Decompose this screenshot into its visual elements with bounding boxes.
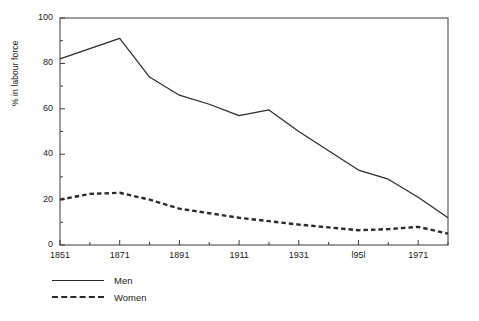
legend-item-women: Women [52, 289, 147, 306]
series-line-women [60, 193, 448, 234]
y-tick-label: 100 [27, 12, 53, 22]
x-tick-label: 1931 [279, 250, 319, 260]
legend-label-men: Men [114, 275, 132, 286]
chart-legend: Men Women [52, 272, 147, 306]
x-tick-label: 1911 [219, 250, 259, 260]
x-tick-label: 1971 [398, 250, 438, 260]
legend-line-swatch-men [52, 276, 104, 285]
x-tick-label: 1891 [159, 250, 199, 260]
x-tick-label: 1871 [100, 250, 140, 260]
x-tick-label: l95l [338, 250, 378, 260]
series-line-men [60, 38, 448, 217]
axis-ticks [60, 18, 448, 245]
y-axis-title: % in labour force [10, 0, 20, 106]
plot-frame [60, 18, 448, 245]
y-tick-label: 60 [27, 103, 53, 113]
x-tick-label: 1851 [40, 250, 80, 260]
legend-label-women: Women [114, 292, 147, 303]
y-tick-label: 80 [27, 57, 53, 67]
data-series-group [60, 38, 448, 233]
chart-figure: % in labour force 020406080100 185118711… [0, 0, 479, 321]
legend-item-men: Men [52, 272, 147, 289]
y-tick-label: 40 [27, 148, 53, 158]
y-tick-label: 0 [27, 239, 53, 249]
y-tick-label: 20 [27, 194, 53, 204]
legend-line-swatch-women [52, 293, 104, 302]
